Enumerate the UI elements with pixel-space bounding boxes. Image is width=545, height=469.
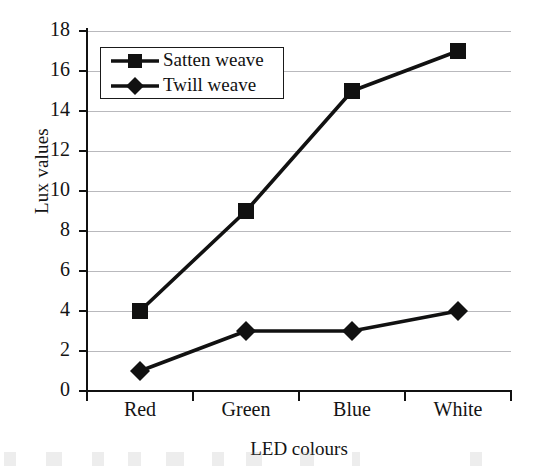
- gridline: [87, 271, 511, 272]
- gridline: [87, 31, 511, 32]
- y-axis-tick: [79, 310, 88, 312]
- gridline: [87, 231, 511, 232]
- gridline: [87, 111, 511, 112]
- y-axis-tick-label: 18: [26, 18, 70, 41]
- y-axis-tick: [79, 350, 88, 352]
- y-axis-tick: [79, 230, 88, 232]
- y-axis-tick-label: 16: [26, 58, 70, 81]
- legend-label-twill-weave: Twill weave: [163, 74, 256, 96]
- y-axis-tick-label: 14: [26, 98, 70, 121]
- chart-figure: Lux values LED colours 024681012141618Re…: [0, 0, 545, 469]
- gridline: [87, 311, 511, 312]
- y-axis-tick-label: 4: [26, 298, 70, 321]
- y-axis-tick: [79, 270, 88, 272]
- x-axis-tick-label: Green: [191, 398, 301, 421]
- scan-artifact: [0, 452, 545, 466]
- y-axis-tick: [79, 190, 88, 192]
- y-axis-tick: [79, 150, 88, 152]
- y-axis-tick: [79, 110, 88, 112]
- legend-label-satten-weave: Satten weave: [163, 49, 264, 71]
- x-axis-tick-label: Blue: [297, 398, 407, 421]
- gridline: [87, 151, 511, 152]
- y-axis-tick: [79, 30, 88, 32]
- y-axis-tick-label: 2: [26, 338, 70, 361]
- y-axis-tick-label: 12: [26, 138, 70, 161]
- square-marker-icon: [109, 48, 161, 74]
- y-axis-tick-label: 0: [26, 378, 70, 401]
- legend-entry-satten-weave: Satten weave: [101, 48, 285, 74]
- legend-entry-twill-weave: Twill weave: [101, 73, 285, 99]
- diamond-marker-icon: [109, 73, 161, 99]
- gridline: [87, 351, 511, 352]
- chart-legend: Satten weave Twill weave: [100, 47, 284, 99]
- y-axis-tick: [79, 70, 88, 72]
- y-axis-line: [86, 28, 88, 394]
- gridline: [87, 191, 511, 192]
- y-axis-tick-label: 8: [26, 218, 70, 241]
- x-axis-tick-label: Red: [85, 398, 195, 421]
- x-axis-tick-label: White: [403, 398, 513, 421]
- y-axis-tick-label: 6: [26, 258, 70, 281]
- y-axis-tick-label: 10: [26, 178, 70, 201]
